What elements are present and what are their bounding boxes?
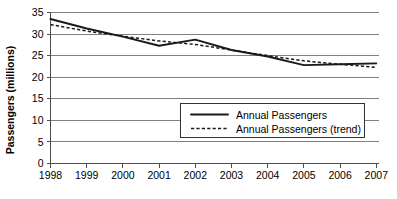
chart-container: 05101520253035 1998199920002001200220032… — [0, 0, 397, 199]
x-tick-label-2003: 2003 — [220, 169, 244, 181]
y-tick-label-5: 5 — [38, 136, 44, 148]
y-tick-label-20: 20 — [32, 71, 44, 83]
y-tick-label-0: 0 — [38, 157, 44, 169]
x-tick-label-2007: 2007 — [365, 169, 389, 181]
legend-label-annual-passengers-trend: Annual Passengers (trend) — [236, 123, 361, 135]
x-axis-tick-marks — [51, 164, 377, 169]
y-tick-label-25: 25 — [32, 49, 44, 61]
y-tick-label-30: 30 — [32, 28, 44, 40]
x-tick-label-1998: 1998 — [39, 169, 63, 181]
y-tick-label-10: 10 — [32, 114, 44, 126]
legend: Annual Passengers Annual Passengers (tre… — [181, 104, 365, 138]
y-tick-label-35: 35 — [32, 6, 44, 18]
line-chart: 05101520253035 1998199920002001200220032… — [0, 0, 397, 199]
y-tick-label-15: 15 — [32, 92, 44, 104]
x-tick-label-2004: 2004 — [256, 169, 280, 181]
y-axis-tick-labels: 05101520253035 — [32, 6, 44, 169]
x-tick-label-2000: 2000 — [111, 169, 135, 181]
x-tick-label-2001: 2001 — [147, 169, 171, 181]
legend-label-annual-passengers: Annual Passengers — [236, 109, 327, 121]
series-line-annual-passengers — [51, 19, 377, 65]
x-tick-label-2005: 2005 — [292, 169, 316, 181]
x-tick-label-2006: 2006 — [328, 169, 352, 181]
x-axis-tick-labels: 1998199920002001200220032004200520062007 — [39, 169, 388, 181]
gridlines — [51, 13, 379, 164]
x-tick-label-1999: 1999 — [75, 169, 99, 181]
y-axis-tick-marks — [47, 13, 51, 164]
y-axis-title: Passengers (millions) — [4, 46, 16, 155]
x-axis — [51, 164, 379, 169]
data-series — [51, 19, 377, 67]
x-tick-label-2002: 2002 — [184, 169, 208, 181]
